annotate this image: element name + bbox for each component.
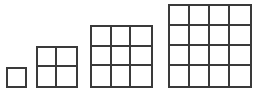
grid-cell <box>8 69 25 86</box>
square-1x1 <box>6 67 27 88</box>
square-4x4 <box>168 4 252 88</box>
grid-cell <box>38 67 57 86</box>
grid-cell <box>230 6 250 26</box>
grid-cell <box>131 66 151 86</box>
grid-cell <box>112 47 132 67</box>
grid-cell <box>112 66 132 86</box>
grid-cell <box>230 26 250 46</box>
grid-cell <box>210 26 230 46</box>
grid-cell <box>170 6 190 26</box>
grid-cell <box>190 6 210 26</box>
grid-cell <box>131 47 151 67</box>
grid-cell <box>92 47 112 67</box>
grid-cell <box>190 66 210 86</box>
grid-cell <box>170 66 190 86</box>
grid-cell <box>230 66 250 86</box>
grid-cell <box>210 46 230 66</box>
grid-cell <box>190 26 210 46</box>
grid-cell <box>230 46 250 66</box>
grid-cell <box>112 27 132 47</box>
grid-cell <box>190 46 210 66</box>
square-3x3 <box>90 25 153 88</box>
grid-cell <box>210 6 230 26</box>
grid-cell <box>92 66 112 86</box>
grid-cell <box>170 46 190 66</box>
square-2x2 <box>36 46 78 88</box>
grid-cell <box>131 27 151 47</box>
grid-cell <box>210 66 230 86</box>
grid-cell <box>57 48 76 67</box>
grid-cell <box>38 48 57 67</box>
diagram-canvas <box>0 0 266 98</box>
grid-cell <box>57 67 76 86</box>
grid-cell <box>92 27 112 47</box>
grid-cell <box>170 26 190 46</box>
